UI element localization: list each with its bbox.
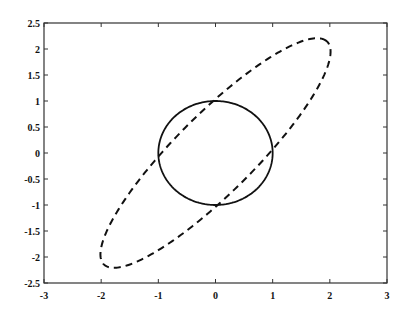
y-tick-label: 0.5 xyxy=(28,122,41,133)
y-axis: 2.521.510.50-0.5-1-1.5-2-2.5 xyxy=(24,18,387,289)
x-tick-label: 0 xyxy=(213,290,218,301)
y-tick-label: -1 xyxy=(32,200,40,211)
y-tick-label: 2.5 xyxy=(28,18,41,29)
x-tick-label: 2 xyxy=(327,290,332,301)
chart: -3-2-10123 2.521.510.50-0.5-1-1.5-2-2.5 xyxy=(0,0,403,316)
y-tick-label: -0.5 xyxy=(24,174,40,185)
y-tick-label: 1 xyxy=(35,96,40,107)
y-tick-label: 2 xyxy=(35,44,40,55)
x-tick-label: -2 xyxy=(97,290,105,301)
dashed-ellipse-curve xyxy=(100,38,330,268)
x-axis: -3-2-10123 xyxy=(40,23,390,301)
x-tick-label: 1 xyxy=(270,290,275,301)
plot-frame xyxy=(44,23,387,283)
x-tick-label: -3 xyxy=(40,290,48,301)
x-tick-label: 3 xyxy=(385,290,390,301)
solid-circle-curve xyxy=(158,101,272,205)
y-tick-label: -2.5 xyxy=(24,278,40,289)
y-tick-label: 0 xyxy=(35,148,40,159)
y-tick-label: 1.5 xyxy=(28,70,41,81)
x-tick-label: -1 xyxy=(154,290,162,301)
y-tick-label: -2 xyxy=(32,252,40,263)
y-tick-label: -1.5 xyxy=(24,226,40,237)
